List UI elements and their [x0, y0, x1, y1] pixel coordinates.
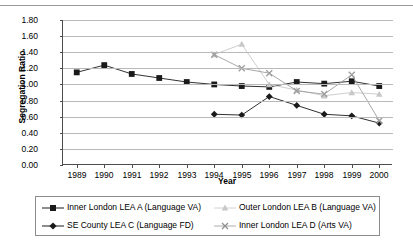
segregation-ratio-chart: Segregation Ratio 0.000.200.400.600.801.…: [0, 10, 413, 175]
y-axis-tick-label: 1.60: [4, 32, 38, 41]
x-axis-tick-mark: [104, 165, 105, 168]
top-border-rule: [0, 5, 413, 6]
series-data-point: [156, 75, 162, 81]
series-data-point: [74, 69, 80, 75]
chart-legend: Inner London LEA A (Language VA) Outer L…: [35, 196, 380, 236]
series-data-point: [349, 72, 355, 78]
legend-item-inner-london-lea-a[interactable]: Inner London LEA A (Language VA): [42, 199, 201, 216]
gridline: [63, 149, 393, 150]
x-axis-title: Year: [62, 176, 392, 186]
x-axis-tick-mark: [77, 165, 78, 168]
cross-marker-icon: [214, 220, 236, 232]
x-axis-tick-mark: [352, 165, 353, 168]
gridline: [63, 101, 393, 102]
data-series: [211, 93, 383, 126]
legend-label: SE County LEA C (Language FD): [67, 221, 194, 230]
legend-row: Inner London LEA A (Language VA) Outer L…: [36, 199, 381, 216]
y-axis-tick-label: 0.40: [4, 129, 38, 138]
legend-item-outer-london-lea-b[interactable]: Outer London LEA B (Language VA): [214, 199, 376, 216]
series-data-point: [266, 93, 273, 100]
x-axis-tick-mark: [324, 165, 325, 168]
diamond-marker-icon: [42, 220, 64, 232]
y-axis-tick-label: 0.00: [4, 161, 38, 170]
y-axis-tick-mark: [60, 52, 63, 53]
legend-row: SE County LEA C (Language FD) Inner Lond…: [36, 217, 381, 234]
y-axis-tick-mark: [60, 20, 63, 21]
gridline: [63, 133, 393, 134]
square-marker-icon: [42, 202, 64, 214]
x-axis-tick-mark: [159, 165, 160, 168]
legend-label: Inner London LEA A (Language VA): [67, 203, 201, 212]
y-axis-tick-mark: [60, 68, 63, 69]
x-axis-tick-mark: [242, 165, 243, 168]
gridline: [63, 36, 393, 37]
plot-area: 0.000.200.400.600.801.001.201.401.601.80…: [62, 20, 392, 165]
gridline: [63, 52, 393, 53]
legend-label: Outer London LEA B (Language VA): [239, 203, 376, 212]
gridline: [63, 68, 393, 69]
legend-item-se-county-lea-c[interactable]: SE County LEA C (Language FD): [42, 217, 194, 234]
y-axis-tick-label: 1.80: [4, 16, 38, 25]
y-axis-tick-mark: [60, 117, 63, 118]
y-axis-tick-label: 0.80: [4, 97, 38, 106]
y-axis-tick-label: 1.00: [4, 80, 38, 89]
series-data-point: [238, 41, 245, 47]
x-axis-tick-mark: [379, 165, 380, 168]
series-layer: [63, 20, 393, 165]
gridline: [63, 84, 393, 85]
x-axis-tick-mark: [297, 165, 298, 168]
x-axis-tick-mark: [132, 165, 133, 168]
gridline: [63, 20, 393, 21]
series-data-point: [348, 112, 355, 119]
y-axis-tick-mark: [60, 101, 63, 102]
y-axis-tick-label: 1.40: [4, 48, 38, 57]
legend-label: Inner London LEA D (Arts VA): [239, 221, 352, 230]
series-data-point: [129, 71, 135, 77]
y-axis-tick-mark: [60, 165, 63, 166]
y-axis-tick-mark: [60, 133, 63, 134]
y-axis-tick-mark: [60, 149, 63, 150]
data-series: [211, 41, 383, 99]
y-axis-tick-label: 0.60: [4, 113, 38, 122]
gridline: [63, 117, 393, 118]
triangle-marker-icon: [214, 202, 236, 214]
x-axis-tick-mark: [214, 165, 215, 168]
y-axis-tick-mark: [60, 84, 63, 85]
x-axis-tick-mark: [187, 165, 188, 168]
x-axis-tick-mark: [269, 165, 270, 168]
y-axis-tick-label: 1.20: [4, 64, 38, 73]
y-axis-tick-mark: [60, 36, 63, 37]
y-axis-tick-label: 0.20: [4, 145, 38, 154]
series-data-point: [293, 102, 300, 109]
legend-item-inner-london-lea-d[interactable]: Inner London LEA D (Arts VA): [214, 217, 352, 234]
